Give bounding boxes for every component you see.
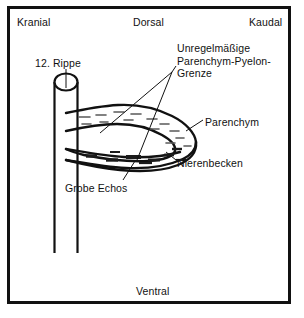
annotation-coarse-echoes: Grobe Echos [65, 182, 127, 195]
annotation-renal-pelvis: Nierenbecken [177, 157, 243, 170]
orientation-label-dorsal: Dorsal [133, 16, 164, 29]
orientation-label-caudal: Kaudal [249, 16, 282, 29]
figure-canvas: Kranial Dorsal Kaudal Ventral 12. Rippe … [0, 0, 304, 318]
annotation-parenchyma: Parenchym [205, 116, 259, 129]
annotation-irregular-parenchyma-pyelon-border: Unregelmäßige Parenchym-Pyelon- Grenze [177, 42, 271, 80]
orientation-label-cranial: Kranial [17, 16, 50, 29]
annotation-rib: 12. Rippe [35, 57, 81, 70]
orientation-label-ventral: Ventral [136, 285, 169, 298]
